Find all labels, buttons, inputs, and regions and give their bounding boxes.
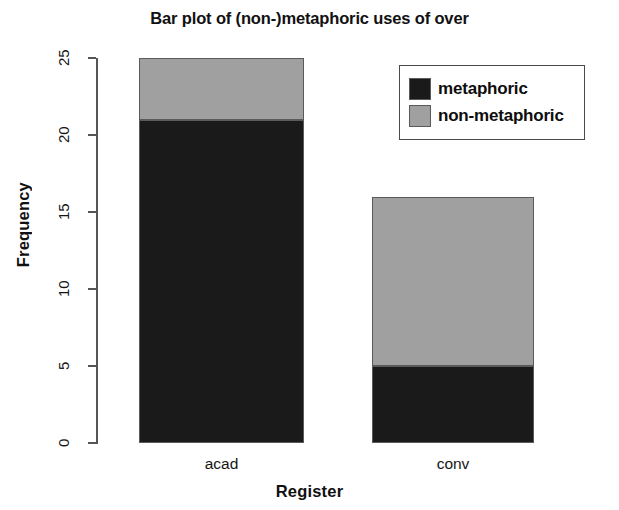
- legend-label: metaphoric: [438, 79, 528, 99]
- bar-group-acad: [139, 0, 304, 510]
- y-axis-tick-label: 15: [56, 199, 80, 225]
- x-axis-label-conv: conv: [372, 455, 534, 473]
- legend-swatch-icon: [409, 105, 431, 127]
- y-axis-tick: [88, 442, 96, 444]
- y-axis-tick-label: 25: [56, 45, 80, 71]
- legend-item-non-metaphoric: non-metaphoric: [409, 103, 564, 129]
- chart-page: Bar plot of (non-)metaphoric uses of ove…: [0, 0, 619, 510]
- y-axis-tick-label: 10: [56, 276, 80, 302]
- y-axis-title: Frequency: [14, 182, 33, 267]
- legend-item-metaphoric: metaphoric: [409, 76, 528, 102]
- y-axis-tick: [88, 365, 96, 367]
- legend: metaphoricnon-metaphoric: [399, 65, 585, 140]
- bar-segment-acad-metaphoric: [139, 120, 304, 443]
- x-axis-label-acad: acad: [139, 455, 304, 473]
- x-axis-title: Register: [0, 482, 619, 501]
- y-axis-line: [96, 58, 98, 444]
- y-axis-tick-label: 5: [56, 353, 80, 379]
- legend-swatch-icon: [409, 78, 431, 100]
- y-axis-tick: [88, 288, 96, 290]
- legend-label: non-metaphoric: [438, 106, 564, 126]
- y-axis-tick-label: 0: [56, 430, 80, 456]
- bar-segment-conv-non-metaphoric: [372, 197, 534, 366]
- y-axis-tick: [88, 211, 96, 213]
- bar-segment-acad-non-metaphoric: [139, 58, 304, 120]
- y-axis-tick-label: 20: [56, 122, 80, 148]
- y-axis-tick: [88, 57, 96, 59]
- bar-segment-conv-metaphoric: [372, 366, 534, 443]
- y-axis-tick: [88, 134, 96, 136]
